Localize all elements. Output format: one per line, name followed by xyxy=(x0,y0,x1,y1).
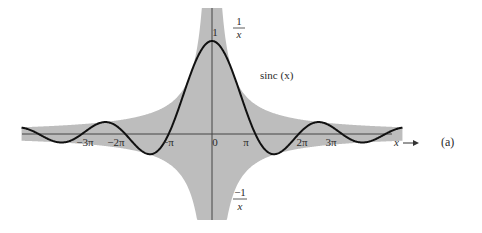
peak-label: 1 xyxy=(212,26,218,38)
upper-env-denominator: x xyxy=(236,28,242,40)
tick-neg-pi: −π xyxy=(162,136,174,148)
curve-label-text: sinc (x) xyxy=(260,69,294,82)
tick-neg-2pi: −2π xyxy=(107,136,125,148)
x-axis-label: x xyxy=(393,136,399,148)
lower-env-denominator: x xyxy=(237,200,243,212)
tick-neg-3pi: −3π xyxy=(76,136,94,148)
x-axis-arrow-icon xyxy=(403,140,419,146)
lower-env-numerator: −1 xyxy=(234,186,246,198)
tick-3pi: 3π xyxy=(325,136,337,148)
upper-envelope-label: 1 x xyxy=(233,15,245,40)
tick-zero: 0 xyxy=(212,136,218,148)
panel-label: (a) xyxy=(441,135,454,149)
lower-envelope-label: −1 x xyxy=(233,186,247,212)
tick-2pi: 2π xyxy=(296,136,308,148)
upper-env-numerator: 1 xyxy=(236,15,242,27)
sinc-chart: −3π −2π −π 0 π 2π 3π 1 1 x −1 x sinc (x)… xyxy=(0,0,482,233)
tick-pi: π xyxy=(243,136,249,148)
curve-label: sinc (x) xyxy=(260,69,294,82)
